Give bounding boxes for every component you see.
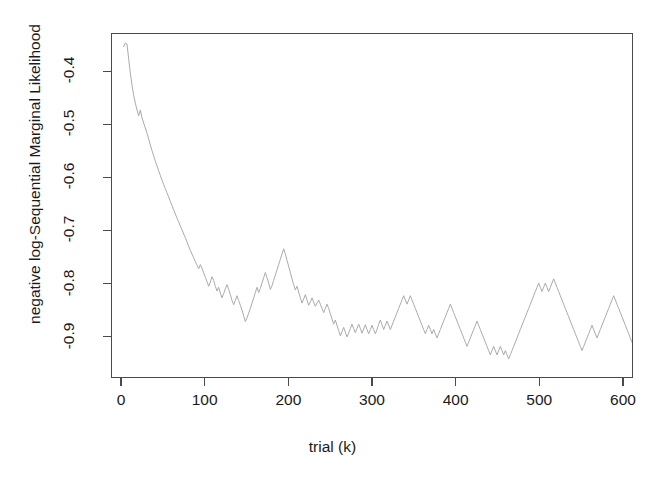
y-tick-label: -0.5 bbox=[60, 94, 78, 152]
x-tick-label: 100 bbox=[170, 391, 240, 409]
data-series-line bbox=[112, 34, 632, 377]
x-tick-label: 400 bbox=[421, 391, 491, 409]
x-tick-mark bbox=[288, 378, 289, 386]
y-tick-label-wrapper: -0.5 bbox=[40, 114, 98, 134]
y-tick-mark bbox=[103, 230, 111, 231]
y-tick-mark bbox=[103, 283, 111, 284]
x-tick-mark bbox=[204, 378, 205, 386]
x-tick-mark bbox=[455, 378, 456, 386]
y-tick-label: -0.8 bbox=[60, 254, 78, 312]
y-tick-label-wrapper: -0.6 bbox=[40, 167, 98, 187]
y-tick-label-wrapper: -0.7 bbox=[40, 220, 98, 240]
x-tick-mark bbox=[120, 378, 121, 386]
y-tick-mark bbox=[103, 336, 111, 337]
y-tick-label-wrapper: -0.4 bbox=[40, 61, 98, 81]
y-tick-mark bbox=[103, 177, 111, 178]
x-tick-label: 300 bbox=[337, 391, 407, 409]
x-tick-label: 0 bbox=[86, 391, 156, 409]
y-tick-mark bbox=[103, 124, 111, 125]
y-tick-label: -0.4 bbox=[60, 41, 78, 99]
y-tick-label: -0.9 bbox=[60, 307, 78, 365]
y-tick-label-wrapper: -0.9 bbox=[40, 327, 98, 347]
x-tick-label: 600 bbox=[588, 391, 658, 409]
x-tick-label: 200 bbox=[253, 391, 323, 409]
x-tick-label: 500 bbox=[504, 391, 574, 409]
x-axis-title: trial (k) bbox=[0, 438, 665, 456]
y-tick-mark bbox=[103, 71, 111, 72]
x-tick-mark bbox=[371, 378, 372, 386]
x-tick-mark bbox=[539, 378, 540, 386]
y-tick-label-wrapper: -0.8 bbox=[40, 274, 98, 294]
x-tick-mark bbox=[622, 378, 623, 386]
chart-figure: negative log-Sequential Marginal Likelih… bbox=[0, 0, 665, 485]
y-tick-label: -0.7 bbox=[60, 200, 78, 258]
series-polyline bbox=[124, 43, 632, 359]
y-tick-label: -0.6 bbox=[60, 147, 78, 205]
plot-area bbox=[111, 33, 633, 378]
